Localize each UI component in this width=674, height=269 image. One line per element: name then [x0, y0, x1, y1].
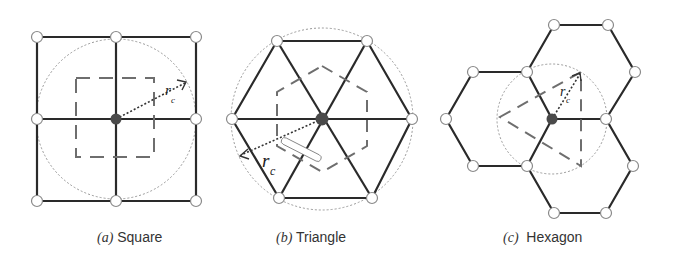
figure: r c r c: [0, 0, 674, 269]
caption-label: (a): [97, 230, 113, 245]
radius-subscript: c: [566, 95, 570, 105]
center-node: [316, 113, 329, 126]
radius-subscript: c: [270, 164, 276, 178]
center-node: [111, 114, 122, 125]
caption-hexagon: (c) Hexagon: [503, 229, 582, 246]
panel-hexagon: r c: [441, 20, 641, 219]
caption-title: Square: [117, 229, 162, 245]
radius-label: r: [262, 150, 270, 171]
caption-label: (c): [503, 230, 519, 245]
caption-label: (b): [276, 230, 292, 245]
caption-title: Hexagon: [526, 229, 582, 245]
center-node: [547, 114, 558, 125]
caption-title: Triangle: [296, 229, 346, 245]
panel-square: r c: [32, 32, 202, 207]
radius-subscript: c: [171, 95, 175, 105]
caption-triangle: (b) Triangle: [276, 229, 346, 246]
caption-square: (a) Square: [97, 229, 162, 246]
panel-triangle: r c: [227, 28, 418, 210]
